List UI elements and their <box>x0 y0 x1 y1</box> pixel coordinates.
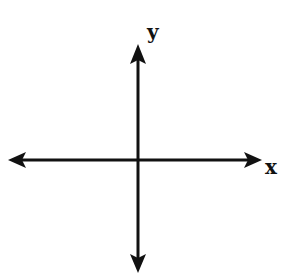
y-axis-label: y <box>147 22 159 42</box>
x-axis <box>8 152 262 168</box>
x-axis-label: x <box>265 157 277 177</box>
